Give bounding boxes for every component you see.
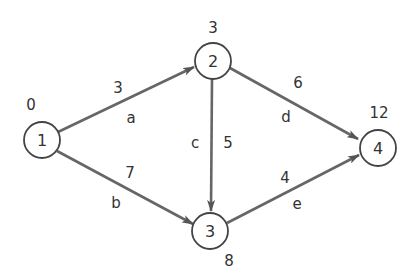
node-4-value: 12 — [369, 104, 388, 122]
network-diagram: 3 a 7 b c 5 6 d 4 e 1 0 2 3 3 8 4 12 — [0, 0, 417, 277]
node-2-label: 2 — [208, 52, 218, 71]
node-2-value: 3 — [208, 19, 218, 37]
edge-d-name: d — [281, 108, 291, 126]
edge-c-weight: 5 — [223, 134, 233, 152]
node-4: 4 — [360, 130, 396, 166]
edge-b — [57, 151, 193, 224]
edge-a-weight: 3 — [113, 79, 123, 97]
edge-d-weight: 6 — [293, 74, 303, 92]
edge-a-name: a — [126, 109, 135, 127]
node-1-value: 0 — [26, 96, 36, 114]
edge-c — [211, 79, 212, 211]
node-3-value: 8 — [224, 252, 234, 270]
node-1: 1 — [24, 122, 60, 158]
edge-c-name: c — [191, 134, 199, 152]
node-2: 2 — [195, 43, 231, 79]
edge-e-name: e — [292, 195, 301, 213]
node-3-label: 3 — [205, 222, 215, 241]
edge-b-name: b — [111, 194, 121, 212]
edge-e-weight: 4 — [280, 169, 290, 187]
node-3: 3 — [192, 213, 228, 249]
edge-b-weight: 7 — [125, 164, 135, 182]
node-1-label: 1 — [37, 131, 47, 150]
node-4-label: 4 — [373, 139, 383, 158]
